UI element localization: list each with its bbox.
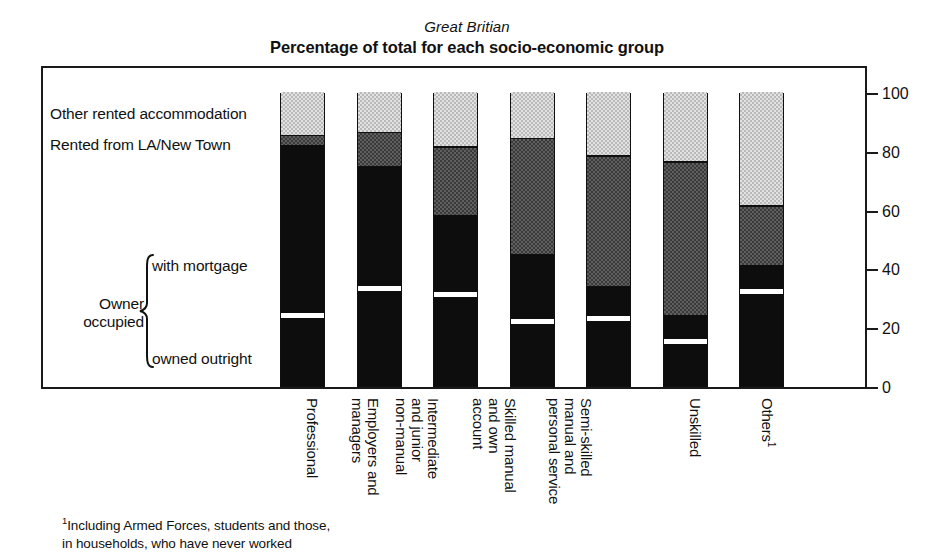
owner-occupied-split-rule <box>281 313 324 318</box>
bar-column[interactable] <box>280 93 325 387</box>
category-label: Professional <box>304 398 320 478</box>
legend-label-owned-outright: owned outright <box>152 350 252 368</box>
segment-divider <box>281 135 324 137</box>
segment-rented-from-la-new-town <box>587 157 630 286</box>
legend-label-owner-occupied: Owner occupied <box>62 295 144 331</box>
bar-column[interactable] <box>739 93 784 387</box>
category-label: Skilled manualand ownaccount <box>470 398 518 493</box>
category-label-line: Intermediate <box>425 398 441 479</box>
segment-rented-from-la-new-town <box>281 136 324 145</box>
y-axis-tick-label: 100 <box>882 86 909 102</box>
chart-subtitle: Great Britian <box>0 18 934 35</box>
y-axis-tick-label: 80 <box>882 145 900 161</box>
category-label-line: Others1 <box>759 398 779 447</box>
category-label-line: non-manual <box>393 398 409 479</box>
category-label-line: and junior <box>409 398 425 479</box>
category-label-line: Employers and <box>365 398 381 495</box>
owner-occupied-split-rule <box>664 339 707 344</box>
category-label-line: Professional <box>304 398 320 478</box>
footnote-line-1: 1Including Armed Forces, students and th… <box>62 512 330 535</box>
segment-divider <box>664 161 707 163</box>
owner-occupied-split-rule <box>511 319 554 324</box>
owner-occupied-split-rule <box>434 292 477 297</box>
footnote-line-2: in households, who have never worked <box>62 535 330 553</box>
category-label-line: Skilled manual <box>502 398 518 493</box>
segment-owner-occupied <box>740 265 783 386</box>
category-label: Intermediateand juniornon-manual <box>393 398 441 479</box>
segment-other-rented-accommodation <box>358 92 401 133</box>
segment-divider <box>587 155 630 157</box>
category-label-line: and own <box>486 398 502 493</box>
chart-title: Percentage of total for each socio-econo… <box>0 38 934 57</box>
segment-owner-occupied <box>358 166 401 387</box>
y-axis-tick-label: 40 <box>882 262 900 278</box>
segment-rented-from-la-new-town <box>740 207 783 266</box>
y-axis-tick <box>867 93 878 95</box>
bar-column[interactable] <box>357 93 402 387</box>
legend-label-other-rented-accommodation: Other rented accommodation <box>50 105 247 123</box>
owner-occupied-split-rule <box>587 316 630 321</box>
y-axis-tick <box>867 387 878 389</box>
category-label-line: Semi-skilled <box>578 398 594 504</box>
legend-label-rented-from-la-new-town: Rented from LA/New Town <box>50 136 231 154</box>
segment-rented-from-la-new-town <box>434 148 477 216</box>
segment-rented-from-la-new-town <box>511 139 554 254</box>
segment-other-rented-accommodation <box>587 92 630 157</box>
category-label: Unskilled <box>687 398 703 457</box>
segment-other-rented-accommodation <box>281 92 324 136</box>
y-axis-tick <box>867 328 878 330</box>
segment-other-rented-accommodation <box>740 92 783 207</box>
footnote: 1Including Armed Forces, students and th… <box>62 512 330 553</box>
category-label: Employers andmanagers <box>349 398 381 495</box>
y-axis-tick-label: 20 <box>882 321 900 337</box>
segment-owner-occupied <box>664 315 707 386</box>
segment-owner-occupied <box>281 145 324 386</box>
segment-owner-occupied <box>434 215 477 386</box>
segment-divider <box>740 205 783 207</box>
owner-occupied-split-rule <box>740 289 783 294</box>
y-axis-tick <box>867 269 878 271</box>
footnote-text-1: Including Armed Forces, students and tho… <box>67 518 330 533</box>
category-label-superscript: 1 <box>766 442 777 447</box>
y-axis-tick <box>867 211 878 213</box>
segment-divider <box>358 132 401 134</box>
y-axis-tick-label: 60 <box>882 204 900 220</box>
bar-column[interactable] <box>663 93 708 387</box>
bar-column[interactable] <box>433 93 478 387</box>
category-label-line: account <box>470 398 486 493</box>
segment-other-rented-accommodation <box>511 92 554 139</box>
segment-divider <box>434 146 477 148</box>
category-label-line: personal service <box>546 398 562 504</box>
segment-divider <box>511 138 554 140</box>
segment-owner-occupied <box>587 286 630 386</box>
bar-column[interactable] <box>586 93 631 387</box>
y-axis-tick <box>867 152 878 154</box>
category-label: Semi-skilledmanual andpersonal service <box>546 398 594 504</box>
segment-rented-from-la-new-town <box>664 163 707 316</box>
curly-brace-icon <box>138 253 154 369</box>
segment-rented-from-la-new-town <box>358 133 401 165</box>
legend-owner-occupied-line1: Owner <box>62 295 144 313</box>
legend-owner-occupied-line2: occupied <box>62 313 144 331</box>
legend-label-with-mortgage: with mortgage <box>152 257 247 275</box>
bar-column[interactable] <box>510 93 555 387</box>
owner-occupied-split-rule <box>358 286 401 291</box>
y-axis: 100806040200 <box>867 66 929 389</box>
segment-other-rented-accommodation <box>434 92 477 148</box>
category-label-line: manual and <box>562 398 578 504</box>
segment-other-rented-accommodation <box>664 92 707 163</box>
category-label: Others1 <box>759 398 779 447</box>
y-axis-tick-label: 0 <box>882 380 891 396</box>
category-label-line: Unskilled <box>687 398 703 457</box>
category-label-line: managers <box>349 398 365 495</box>
